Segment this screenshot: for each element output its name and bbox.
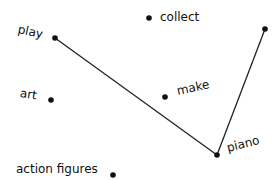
- node-dot-collect: [146, 15, 152, 21]
- node-dot-action-figures: [110, 172, 116, 178]
- node-dot-art: [48, 97, 54, 103]
- edge-play-piano: [55, 38, 217, 155]
- node-label-action-figures: action figures: [16, 162, 98, 176]
- node-dot-top-right: [262, 26, 268, 32]
- node-dot-make: [162, 94, 168, 100]
- node-dot-piano: [214, 152, 220, 158]
- node-dot-play: [52, 35, 58, 41]
- node-label-art: art: [19, 86, 38, 102]
- word-diagram: playcollectartmakepianoaction figures: [0, 0, 280, 180]
- node-label-collect: collect: [160, 10, 199, 24]
